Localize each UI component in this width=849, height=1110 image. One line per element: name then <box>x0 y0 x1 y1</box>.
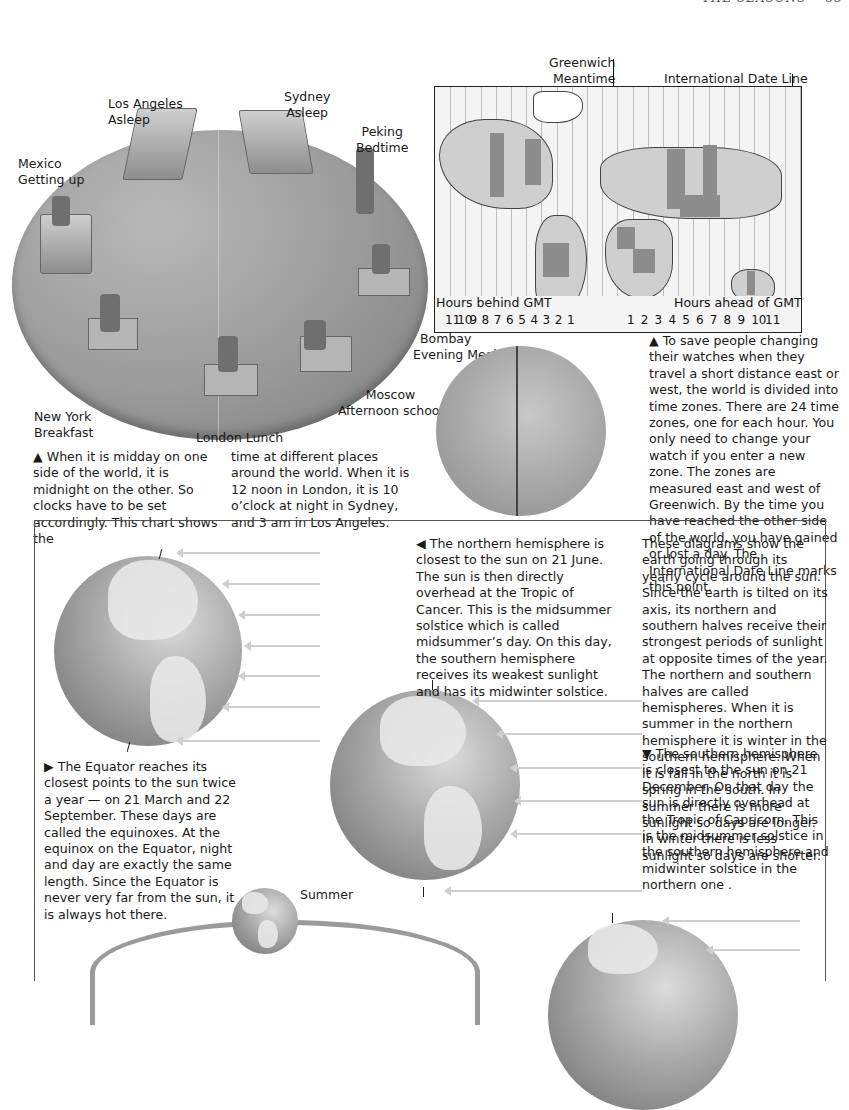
city-activity: Asleep <box>284 105 330 121</box>
sun-ray-arrow <box>516 833 642 835</box>
sun-ray-arrow <box>228 583 320 585</box>
hour-tick: 8 <box>482 313 490 327</box>
sun-ray-arrow <box>182 552 320 554</box>
sun-ray-arrow <box>502 733 642 735</box>
zone-shade <box>747 271 755 295</box>
zone-shade <box>490 133 504 197</box>
hour-tick: 2 <box>555 313 563 327</box>
hour-tick: 9 <box>469 313 477 327</box>
city-name: New York <box>34 409 94 425</box>
hour-tick: 3 <box>543 313 551 327</box>
city-label-moscow: Moscow Afternoon school <box>338 387 443 419</box>
greenwich-label-line1: Greenwich <box>549 55 615 71</box>
sun-ray-arrow <box>450 890 642 892</box>
greenland-shape <box>533 91 583 123</box>
hour-tick: 5 <box>518 313 526 327</box>
equinox-caption: ▶ The Equator reaches its closest points… <box>44 759 244 923</box>
sun-ray-arrow <box>712 949 800 951</box>
city-activity: Breakfast <box>34 425 94 441</box>
north-america-shape <box>108 560 198 640</box>
sun-ray-arrow <box>520 800 642 802</box>
city-name: Bombay <box>413 331 497 347</box>
city-label-mexico: Mexico Getting up <box>18 156 84 188</box>
running-head: THE SEASONS 33 <box>702 0 843 5</box>
axis-tick <box>423 887 424 897</box>
city-name: London <box>196 430 242 445</box>
sun-ray-arrow <box>182 740 320 742</box>
sun-ray-arrow <box>244 614 320 616</box>
globe-meridian-icon <box>436 346 606 516</box>
city-label-los-angeles: Los Angeles Asleep <box>108 96 183 128</box>
city-name: Moscow <box>338 387 443 403</box>
globe-equinox-icon <box>330 690 520 880</box>
sun-ray-arrow <box>244 675 320 677</box>
hour-tick: 1 <box>567 313 575 327</box>
hour-tick: 3 <box>655 313 663 327</box>
city-name: Peking <box>356 124 408 140</box>
greenwich-marker <box>613 59 614 89</box>
person-london-icon <box>218 336 238 372</box>
hour-tick: 6 <box>506 313 514 327</box>
zone-shade <box>703 145 717 201</box>
hour-tick: 6 <box>696 313 704 327</box>
zone-shade <box>680 195 720 217</box>
city-label-new-york: New York Breakfast <box>34 409 94 441</box>
hour-tick: 8 <box>724 313 732 327</box>
city-activity: Bedtime <box>356 140 408 156</box>
clock-caption-col2: time at different places around the worl… <box>231 449 411 531</box>
city-label-sydney: Sydney Asleep <box>284 89 330 121</box>
south-america-shape <box>150 656 206 742</box>
hour-tick: 9 <box>737 313 745 327</box>
time-zone-line <box>587 87 588 296</box>
meridian-line <box>516 346 518 516</box>
south-america-shape <box>424 786 482 870</box>
continent-shape <box>242 892 268 914</box>
continent-shape <box>258 920 278 948</box>
city-activity: Afternoon school <box>338 403 443 419</box>
axis-tick <box>612 913 613 923</box>
hours-behind-label: Hours behind GMT <box>436 295 552 310</box>
sun-ray-arrow <box>668 920 800 922</box>
time-zone-line <box>785 87 786 296</box>
person-mexico-icon <box>52 196 70 226</box>
world-map: Hours behind GMT Hours ahead of GMT 1110… <box>434 86 802 333</box>
hour-tick: 7 <box>710 313 718 327</box>
hour-tick: 4 <box>530 313 538 327</box>
person-new-york-icon <box>100 294 120 332</box>
hour-tick: 7 <box>494 313 502 327</box>
city-activity: Lunch <box>246 430 283 445</box>
hours-ahead-label: Hours ahead of GMT <box>674 295 802 310</box>
date-line-label: International Date Line <box>664 71 808 87</box>
sun-ray-arrow <box>250 645 320 647</box>
hour-tick: 1 <box>627 313 635 327</box>
page-number: 33 <box>826 0 843 5</box>
greenwich-label-line2: Meantime <box>549 71 615 87</box>
orbit-summer-label: Summer <box>300 887 353 903</box>
north-america-shape <box>380 696 466 766</box>
sun-ray-arrow <box>516 767 642 769</box>
person-peking-icon <box>356 148 374 214</box>
hours-scale: Hours behind GMT Hours ahead of GMT 1110… <box>435 296 801 332</box>
zone-shade <box>543 243 569 277</box>
december-caption: ▼ The southern hemisphere is closest to … <box>642 746 830 894</box>
june-caption: ◀ The northern hemisphere is closest to … <box>416 536 612 700</box>
city-name: Sydney <box>284 89 330 105</box>
sun-ray-arrow <box>478 700 642 702</box>
greenwich-label: Greenwich Meantime <box>549 55 615 87</box>
city-label-peking: Peking Bedtime <box>356 124 408 156</box>
zone-shade <box>633 249 655 273</box>
time-zone-line <box>800 87 801 296</box>
time-zone-line <box>450 87 451 296</box>
city-label-london: London Lunch <box>196 430 283 446</box>
hour-tick: 5 <box>682 313 690 327</box>
person-bombay-icon <box>372 244 390 274</box>
hour-tick: 2 <box>641 313 649 327</box>
hour-tick: 4 <box>668 313 676 327</box>
person-moscow-icon <box>304 320 326 350</box>
city-name: Los Angeles <box>108 96 183 112</box>
globe-june-icon <box>54 556 242 746</box>
zone-shade <box>525 139 541 185</box>
city-activity: Getting up <box>18 172 84 188</box>
city-activity: Asleep <box>108 112 183 128</box>
hour-tick: 11 <box>765 313 780 327</box>
